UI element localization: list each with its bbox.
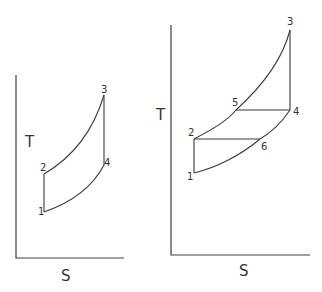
right-x-axis-label: S (239, 262, 249, 280)
right-process-4-6-1 (194, 110, 290, 173)
left-x-axis-label: S (61, 267, 71, 285)
left-y-axis-label: T (24, 133, 35, 151)
left-point-3-label: 3 (101, 84, 107, 95)
left-ts-diagram: T S 1 2 3 4 (16, 75, 124, 285)
left-point-4-label: 4 (104, 157, 110, 168)
right-point-5-label: 5 (232, 97, 238, 108)
right-point-1-label: 1 (187, 171, 193, 182)
ts-diagrams: T S 1 2 3 4 T S 1 2 3 4 5 6 (0, 0, 322, 292)
right-point-2-label: 2 (188, 127, 194, 138)
left-process-4-1 (44, 165, 104, 212)
right-process-2-5-3 (194, 30, 290, 139)
right-ts-diagram: T S 1 2 3 4 5 6 (155, 16, 310, 280)
right-point-3-label: 3 (287, 16, 293, 27)
left-point-2-label: 2 (40, 162, 46, 173)
left-process-2-3 (44, 95, 104, 174)
right-y-axis-label: T (155, 106, 166, 124)
left-point-1-label: 1 (38, 206, 44, 217)
right-point-6-label: 6 (261, 141, 267, 152)
right-axes (171, 25, 310, 255)
right-point-4-label: 4 (293, 106, 299, 117)
